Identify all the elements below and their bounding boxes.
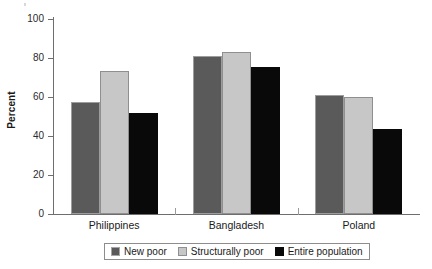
bar bbox=[100, 71, 129, 214]
x-axis-category-label: Poland bbox=[298, 219, 420, 231]
bar bbox=[315, 95, 344, 214]
legend-label: New poor bbox=[124, 246, 167, 257]
y-axis-tick-label: 0 bbox=[0, 209, 44, 219]
scan-artifact bbox=[24, 3, 26, 6]
y-axis-tick-label-holder: 20 bbox=[0, 170, 44, 180]
bar bbox=[71, 102, 100, 214]
plot-area bbox=[53, 19, 420, 214]
legend-label: Entire population bbox=[288, 246, 363, 257]
y-axis-tick-label: 60 bbox=[0, 92, 44, 102]
legend-item: New poor bbox=[111, 246, 167, 257]
x-axis-line bbox=[53, 214, 420, 215]
legend-swatch-icon bbox=[111, 247, 120, 256]
y-axis-tick-label-holder: 60 bbox=[0, 92, 44, 102]
bar bbox=[373, 129, 402, 214]
legend-item: Structurally poor bbox=[178, 246, 264, 257]
y-axis-tick-label: 80 bbox=[0, 53, 44, 63]
x-axis-category-label: Philippines bbox=[53, 219, 175, 231]
y-axis-tick bbox=[48, 214, 53, 215]
bar bbox=[251, 67, 280, 214]
bar-chart-figure: Percent 020406080100 PhilippinesBanglade… bbox=[0, 0, 432, 269]
legend-label: Structurally poor bbox=[191, 246, 264, 257]
y-axis-tick-label-holder: 100 bbox=[0, 14, 44, 24]
y-axis-tick-label: 100 bbox=[0, 14, 44, 24]
x-axis-category-label: Bangladesh bbox=[175, 219, 297, 231]
bar bbox=[222, 52, 251, 214]
y-axis-tick-label-holder: 0 bbox=[0, 209, 44, 219]
chart-legend: New poorStructurally poorEntire populati… bbox=[104, 243, 370, 260]
y-axis-tick-label: 20 bbox=[0, 170, 44, 180]
y-axis-tick-label-holder: 40 bbox=[0, 131, 44, 141]
legend-item: Entire population bbox=[275, 246, 363, 257]
bar bbox=[193, 56, 222, 214]
legend-swatch-icon bbox=[178, 247, 187, 256]
y-axis-tick-label: 40 bbox=[0, 131, 44, 141]
bar bbox=[129, 113, 158, 214]
legend-swatch-icon bbox=[275, 247, 284, 256]
y-axis-tick-label-holder: 80 bbox=[0, 53, 44, 63]
bar bbox=[344, 97, 373, 214]
